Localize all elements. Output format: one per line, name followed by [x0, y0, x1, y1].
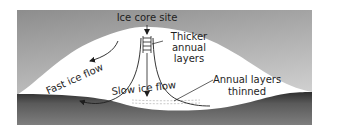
ice-flow-diagram: Ice core site Thicker annual layers Fast…	[0, 0, 340, 135]
diagram-canvas: Ice core site Thicker annual layers Fast…	[0, 0, 340, 135]
label-annual-thinned-line2: thinned	[228, 86, 266, 97]
label-thicker-line1: Thicker	[170, 31, 208, 42]
label-thicker-line2: annual	[172, 42, 206, 53]
label-thicker-line3: layers	[174, 53, 204, 64]
label-ice-core-site: Ice core site	[117, 12, 178, 23]
label-annual-thinned-line1: Annual layers	[213, 74, 281, 85]
